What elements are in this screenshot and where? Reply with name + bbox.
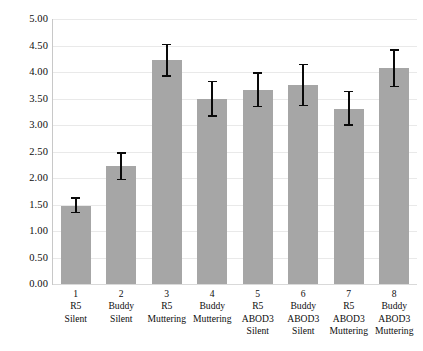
bar [288,85,318,284]
x-axis-tick-label-line: Buddy [368,300,420,312]
y-axis-tick-label: 3.00 [4,120,48,131]
error-bar-cap-lower [344,124,353,126]
x-axis-tick-label-line: Silent [50,313,102,325]
y-axis-tick-label: 1.00 [4,226,48,237]
y-axis-tick-labels: 5.00 4.50 4.00 3.50 3.00 2.50 2.00 1.50 … [0,0,48,351]
x-axis-tick-label-line: Silent [277,325,329,337]
x-axis-tick-label-line: Buddy [277,300,329,312]
error-bar-cap-lower [253,106,262,108]
x-axis-tick-label-line: Muttering [368,325,420,337]
y-axis-tick-label: 0.00 [4,279,48,290]
x-axis-tick-label-line: Buddy [186,300,238,312]
x-axis-tick-label-line: 6 [277,288,329,300]
y-axis-tick-label: 4.00 [4,67,48,78]
error-bar-cap-lower [117,179,126,181]
error-bar [75,198,77,212]
error-bar [211,82,213,116]
error-bar-cap-upper [390,49,399,51]
error-bar-cap-upper [162,44,171,46]
y-axis-tick-label: 2.00 [4,173,48,184]
x-axis-tick-label-line: Muttering [186,313,238,325]
x-axis-tick-label-line: ABOD3 [232,313,284,325]
error-bar-cap-upper [253,72,262,74]
error-bar-cap-lower [71,212,80,214]
gridline [53,46,417,47]
gridline [53,72,417,73]
bar [106,166,136,284]
x-axis-tick-label: 4BuddyMuttering [186,288,238,325]
error-bar-cap-upper [299,64,308,66]
bar [152,60,182,284]
gridline [53,99,417,100]
error-bar [302,65,304,106]
x-axis-tick-label: 6BuddyABOD3Silent [277,288,329,338]
y-axis-tick-label: 5.00 [4,14,48,25]
error-bar-cap-lower [390,86,399,88]
bar [61,206,91,284]
x-axis-tick-label: 2BuddySilent [95,288,147,325]
x-axis-tick-label-line: R5 [323,300,375,312]
x-axis-tick-label-line: ABOD3 [323,313,375,325]
bar [243,90,273,284]
y-axis-tick-label: 3.50 [4,94,48,105]
bar-chart: 5.00 4.50 4.00 3.50 3.00 2.50 2.00 1.50 … [0,0,423,351]
error-bar-cap-upper [117,152,126,154]
bar [334,109,364,284]
bar [197,99,227,284]
x-axis-tick-label-line: Silent [232,325,284,337]
gridline [53,19,417,20]
plot-area [53,19,417,284]
x-axis-tick-label-line: ABOD3 [368,313,420,325]
error-bar-cap-upper [71,197,80,199]
error-bar [166,44,168,76]
x-axis-tick-label-line: 4 [186,288,238,300]
y-axis-tick-label: 1.50 [4,200,48,211]
x-axis-tick-label-line: R5 [232,300,284,312]
gridline [53,284,417,285]
x-axis-tick-labels: 1R5Silent2BuddySilent3R5Muttering4BuddyM… [53,288,417,348]
x-axis-tick-label-line: 5 [232,288,284,300]
y-axis-tick-label: 0.50 [4,253,48,264]
x-axis-tick-label-line: Buddy [95,300,147,312]
error-bar-cap-lower [299,105,308,107]
x-axis-tick-label-line: Muttering [323,325,375,337]
x-axis-tick-label: 5R5ABOD3Silent [232,288,284,338]
x-axis-tick-label: 1R5Silent [50,288,102,325]
x-axis-tick-label-line: Silent [95,313,147,325]
x-axis-tick-label-line: 8 [368,288,420,300]
x-axis-tick-label: 8BuddyABOD3Muttering [368,288,420,338]
x-axis-tick-label-line: R5 [50,300,102,312]
x-axis-tick-label: 7R5ABOD3Muttering [323,288,375,338]
error-bar [393,50,395,87]
error-bar-cap-upper [208,81,217,83]
bar [379,68,409,284]
x-axis-tick-label: 3R5Muttering [141,288,193,325]
error-bar-cap-lower [208,115,217,117]
y-axis-tick-label: 4.50 [4,41,48,52]
y-axis-tick-label: 2.50 [4,147,48,158]
error-bar [348,92,350,125]
error-bar-cap-upper [344,91,353,93]
error-bar [120,153,122,180]
x-axis-tick-label-line: 1 [50,288,102,300]
x-axis-tick-label-line: R5 [141,300,193,312]
x-axis-tick-label-line: ABOD3 [277,313,329,325]
x-axis-tick-label-line: Muttering [141,313,193,325]
error-bar-cap-lower [162,75,171,77]
x-axis-tick-label-line: 2 [95,288,147,300]
x-axis-tick-label-line: 7 [323,288,375,300]
x-axis-tick-label-line: 3 [141,288,193,300]
error-bar [257,73,259,106]
